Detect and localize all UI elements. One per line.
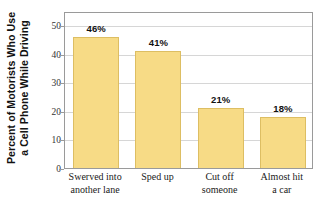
bar-slot: 41%	[135, 13, 181, 168]
y-axis-tick-label: 50	[37, 21, 61, 31]
x-axis-category-label-line: another lane	[64, 184, 126, 197]
y-axis-tick-label: 40	[37, 50, 61, 60]
y-axis-tick-label: 30	[37, 78, 61, 88]
x-axis-category-label-line: a car	[251, 184, 313, 197]
x-axis-category-label: Almost hita car	[251, 171, 313, 196]
plot-area: 46%41%21%18%	[64, 12, 313, 169]
y-axis-tick-label: 10	[37, 135, 61, 145]
y-axis-tick-label: 0	[37, 164, 61, 174]
y-axis-title: Percent of Motorists Who Use a Cell Phon…	[0, 0, 36, 175]
bar[interactable]	[198, 108, 244, 168]
y-axis-tick-label: 20	[37, 107, 61, 117]
y-axis-title-line-2: a Cell Phone While Driving	[18, 11, 31, 163]
bar-slot: 46%	[73, 13, 119, 168]
x-axis-category-label-line: Sped up	[126, 171, 188, 184]
x-axis-category-label: Sped up	[126, 171, 188, 184]
x-axis-category-label: Swerved intoanother lane	[64, 171, 126, 196]
y-axis-tick-mark	[59, 169, 64, 170]
bar-series: 46%41%21%18%	[65, 13, 312, 168]
bar-value-label: 18%	[246, 103, 320, 114]
x-axis-category-label-line: Cut off	[189, 171, 251, 184]
bar-slot: 21%	[198, 13, 244, 168]
bar-chart: Percent of Motorists Who Use a Cell Phon…	[0, 0, 323, 205]
bar-slot: 18%	[260, 13, 306, 168]
x-axis-category-label-line: Swerved into	[64, 171, 126, 184]
bar[interactable]	[260, 117, 306, 168]
bar[interactable]	[135, 51, 181, 168]
bar-value-label: 41%	[121, 37, 195, 48]
bar[interactable]	[73, 37, 119, 168]
x-axis-labels: Swerved intoanother laneSped upCut offso…	[64, 171, 313, 205]
y-axis-title-line-1: Percent of Motorists Who Use	[5, 11, 18, 163]
x-axis-category-label-line: someone	[189, 184, 251, 197]
bar-value-label: 46%	[59, 23, 133, 34]
x-axis-category-label-line: Almost hit	[251, 171, 313, 184]
x-axis-category-label: Cut offsomeone	[189, 171, 251, 196]
